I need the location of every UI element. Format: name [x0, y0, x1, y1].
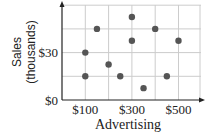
x-axis-label: Advertising [95, 117, 161, 132]
data-point [117, 73, 123, 79]
y-tick-label: $0 [45, 93, 58, 108]
y-axis-arrow-icon [60, 1, 65, 7]
y-axis-label-line-2: (thousands) [24, 20, 38, 83]
data-point [152, 26, 158, 32]
data-point [164, 73, 170, 79]
scatter-chart: $100$300$500 $0$30 Advertising Sales (th… [0, 0, 208, 133]
x-tick-label: $300 [119, 102, 145, 117]
data-point [82, 49, 88, 55]
y-axis-label: Sales (thousands) [10, 20, 38, 83]
data-point [129, 38, 135, 44]
x-tick-label: $500 [166, 102, 192, 117]
y-axis-label-line-1: Sales [10, 37, 24, 67]
data-point [94, 26, 100, 32]
data-point [105, 61, 111, 67]
chart-canvas: $100$300$500 $0$30 Advertising Sales (th… [0, 0, 208, 133]
data-point [129, 14, 135, 20]
y-tick-labels: $0$30 [39, 45, 59, 107]
data-point [140, 85, 146, 91]
y-tick-label: $30 [39, 45, 59, 60]
x-axis-arrow-icon [199, 98, 205, 103]
data-point [175, 38, 181, 44]
data-point [82, 73, 88, 79]
x-tick-label: $100 [72, 102, 98, 117]
x-tick-labels: $100$300$500 [72, 102, 191, 117]
